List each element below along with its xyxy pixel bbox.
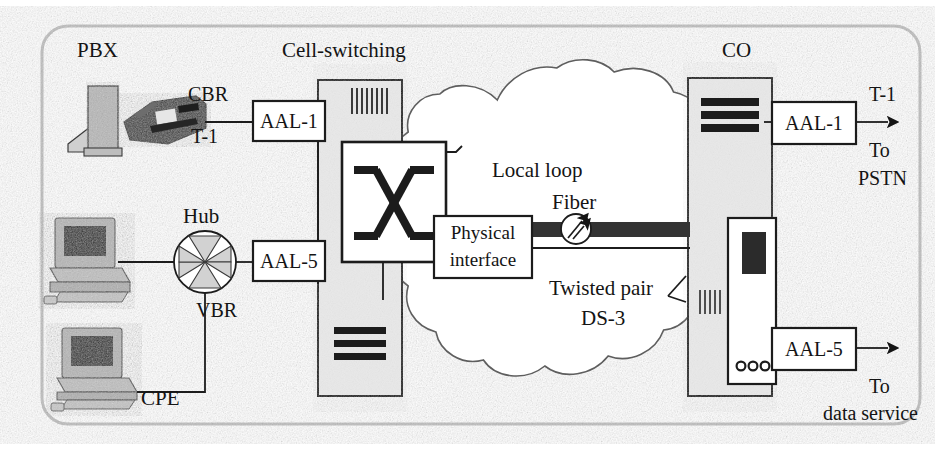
workstation-top [44,218,130,304]
pbx-cabinet [68,86,122,156]
aal1-right-label: AAL-1 [772,102,856,144]
label-fiber: Fiber [552,192,596,213]
label-local-loop: Local loop [492,160,582,181]
fiber-optic-symbol [561,214,591,244]
co-cabinet [688,78,776,396]
label-to-data-line1: To [869,376,890,396]
label-t1-right: T-1 [869,84,896,104]
label-to-pstn-line1: To [869,140,890,160]
aal1-left-label: AAL-1 [253,101,325,141]
co-shelf-bars [701,98,759,132]
label-vbr: VBR [196,300,237,320]
co-tower [728,218,776,384]
label-ds3: DS-3 [581,308,625,329]
fiber-trunk [530,222,690,237]
label-twisted-pair: Twisted pair [549,278,653,299]
aal5-right-label: AAL-5 [772,328,856,370]
physical-interface-label-line2: interface [434,246,532,274]
label-cpe: CPE [141,388,180,409]
label-cell-switching: Cell-switching [282,40,406,61]
label-hub: Hub [183,206,219,227]
label-co: CO [722,40,751,61]
aal5-left-label: AAL-5 [253,241,325,281]
cabinet-shelf-bars [334,327,386,360]
hub-node [174,231,236,293]
label-to-data-line2: data service [823,403,918,423]
label-pbx: PBX [77,40,118,61]
physical-interface-label-line1: Physical [434,219,532,247]
label-t1-left: T-1 [191,126,218,146]
diagram-canvas: PBX Cell-switching CO CBR T-1 Hub VBR CP… [0,0,935,450]
crossbar-switch [342,142,446,262]
label-to-pstn-line2: PSTN [858,168,907,188]
workstation-bottom [51,328,137,411]
label-cbr: CBR [188,84,228,104]
